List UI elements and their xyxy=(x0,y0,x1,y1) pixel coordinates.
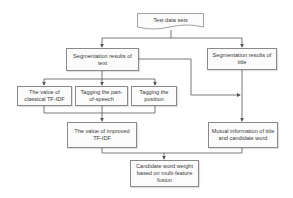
classical-tfidf-node: The value of classical TF-IDF xyxy=(17,86,72,106)
improved-tfidf-node: The value of improved TF-IDF xyxy=(67,122,137,148)
node-label: Test data sets xyxy=(137,13,204,27)
candidate-word-weight-node: Candidate word weight based on multi-fea… xyxy=(130,160,199,187)
test-data-sets-node: Test data sets xyxy=(137,13,204,31)
pos-tagging-node: Tagging the part-of-speech xyxy=(75,86,128,106)
position-tagging-node: Tagging the position xyxy=(131,86,177,106)
segmentation-title-node: Segmentation results of title xyxy=(207,48,277,70)
segmentation-text-node: Segmentation results of text xyxy=(66,48,139,71)
mutual-information-node: Mutual information of title and candidat… xyxy=(208,122,278,148)
